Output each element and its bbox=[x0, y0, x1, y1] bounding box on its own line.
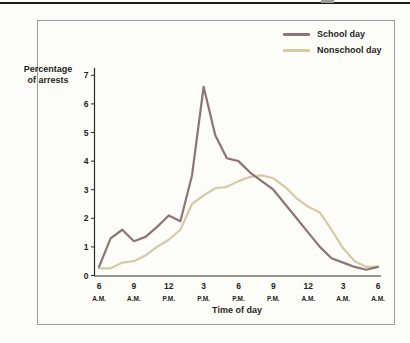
y-tick-label: 0 bbox=[84, 271, 89, 281]
x-tick-hour-label: 9 bbox=[271, 281, 276, 291]
x-tick-hour-label: 12 bbox=[304, 281, 314, 291]
x-tick-hour-label: 6 bbox=[97, 281, 102, 291]
x-tick-period-label: P.M. bbox=[162, 295, 175, 302]
x-tick-period-label: P.M. bbox=[197, 295, 210, 302]
y-tick-label: 3 bbox=[84, 185, 89, 195]
y-tick-label: 5 bbox=[84, 128, 89, 138]
x-tick-period-label: A.M. bbox=[301, 295, 315, 302]
x-tick-hour-label: 12 bbox=[164, 281, 174, 291]
x-tick-period-label: A.M. bbox=[371, 295, 385, 302]
x-tick-period-label: P.M. bbox=[232, 295, 245, 302]
series-line-school-day bbox=[99, 87, 378, 270]
book-page: Percentage of arrests School day Nonscho… bbox=[0, 0, 410, 343]
x-tick-hour-label: 6 bbox=[236, 281, 241, 291]
x-axis-title: Time of day bbox=[187, 305, 287, 315]
x-tick-hour-label: 3 bbox=[201, 281, 206, 291]
y-tick-label: 7 bbox=[84, 70, 89, 80]
x-tick-hour-label: 9 bbox=[132, 281, 137, 291]
y-tick-label: 1 bbox=[84, 242, 89, 252]
x-tick-hour-label: 3 bbox=[341, 281, 346, 291]
x-tick-period-label: A.M. bbox=[92, 295, 106, 302]
x-tick-period-label: A.M. bbox=[127, 295, 141, 302]
x-tick-period-label: P.M. bbox=[267, 295, 280, 302]
series-line-nonschool-day bbox=[99, 175, 378, 268]
y-tick-label: 6 bbox=[84, 99, 89, 109]
x-tick-hour-label: 6 bbox=[376, 281, 381, 291]
plot-svg: 012345676A.M.9A.M.12P.M.3P.M.6P.M.9P.M.1… bbox=[0, 0, 410, 343]
x-tick-period-label: A.M. bbox=[336, 295, 350, 302]
y-tick-label: 2 bbox=[84, 213, 89, 223]
y-tick-label: 4 bbox=[84, 156, 89, 166]
